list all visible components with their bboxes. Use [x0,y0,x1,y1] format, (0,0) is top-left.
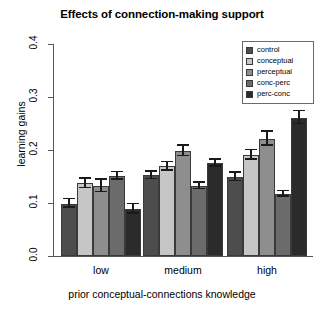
error-bar-cap-bottom [261,144,273,146]
chart-figure: Effects of connection-making support lea… [0,0,324,315]
bar-low-conceptual[interactable] [77,173,93,256]
error-bar-cap-bottom [177,155,189,157]
error-bar-cap-bottom [209,165,221,167]
legend: controlconceptualperceptualconc-percperc… [242,41,314,104]
bar-high-control[interactable] [227,167,243,256]
bar-rect [109,176,125,256]
bar-rect [77,183,93,256]
error-bar-cap-top [193,181,205,183]
error-bar-cap-bottom [161,169,173,171]
error-bar-cap-bottom [277,195,289,197]
x-axis-label: prior conceptual-connections knowledge [0,288,324,300]
bar-rect [259,139,275,256]
error-bar-cap-top [145,170,157,172]
legend-swatch-icon [246,58,253,65]
error-bar-cap-top [79,177,91,179]
legend-label: perc-conc [257,90,290,98]
error-bar-cap-top [127,203,139,205]
error-bar-cap-top [261,130,273,132]
y-tick-label-wrap: 0.2 [18,143,48,157]
bar-low-control[interactable] [61,193,77,256]
error-bar-cap-top [161,161,173,163]
error-bar-cap-bottom [127,212,139,214]
bar-high-perceptual[interactable] [259,126,275,256]
bar-high-perc-conc[interactable] [291,105,307,256]
bar-rect [191,186,207,256]
legend-swatch-icon [246,47,253,54]
error-bar-cap-bottom [245,158,257,160]
error-bar-cap-bottom [193,188,205,190]
bar-group-low [61,44,141,256]
y-tick-label: 0.2 [28,134,39,164]
bar-medium-perceptual[interactable] [175,140,191,256]
legend-item-conceptual[interactable]: conceptual [246,56,311,66]
legend-item-perceptual[interactable]: perceptual [246,67,311,77]
error-bar-cap-top [277,190,289,192]
error-bar-cap-top [63,198,75,200]
bar-rect [61,204,77,256]
error-bar-cap-top [177,144,189,146]
legend-swatch-icon [246,80,253,87]
legend-label: perceptual [257,68,292,76]
error-bar-cap-bottom [79,187,91,189]
error-bar-cap-bottom [293,123,305,125]
bar-rect [291,118,307,256]
legend-swatch-icon [246,69,253,76]
error-bar-cap-bottom [145,178,157,180]
y-tick-label-wrap: 0.1 [18,196,48,210]
x-group-label-low: low [56,264,146,276]
y-tick-label-wrap: 0.4 [18,37,48,51]
error-bar-cap-top [229,171,241,173]
error-bar-cap-bottom [95,191,107,193]
y-tick-label: 0.0 [28,240,39,270]
legend-item-control[interactable]: control [246,45,311,55]
bar-medium-conceptual[interactable] [159,156,175,256]
bar-high-conc-perc[interactable] [275,185,291,256]
legend-label: control [257,46,280,54]
bar-rect [143,175,159,256]
legend-label: conceptual [257,57,293,65]
error-bar-cap-top [95,178,107,180]
error-bar-cap-top [245,149,257,151]
bar-low-conc-perc[interactable] [109,166,125,256]
bar-medium-control[interactable] [143,166,159,256]
error-bar-cap-bottom [229,180,241,182]
legend-item-conc-perc[interactable]: conc-perc [246,78,311,88]
bar-rect [207,163,223,256]
y-tick-label-wrap: 0.3 [18,90,48,104]
legend-item-perc-conc[interactable]: perc-conc [246,89,311,99]
bar-medium-perc-conc[interactable] [207,154,223,256]
y-tick-label: 0.1 [28,187,39,217]
bar-rect [93,186,109,256]
y-tick-mark [48,256,53,257]
legend-label: conc-perc [257,79,290,87]
error-bar-cap-top [111,171,123,173]
error-bar-cap-top [209,158,221,160]
legend-swatch-icon [246,91,253,98]
x-group-label-medium: medium [138,264,228,276]
bar-low-perc-conc[interactable] [125,198,141,256]
bar-rect [243,155,259,256]
y-axis-label: learning gains [15,59,27,209]
chart-title: Effects of connection-making support [0,8,324,20]
y-tick-label-wrap: 0.0 [18,249,48,263]
bar-medium-conc-perc[interactable] [191,177,207,256]
x-axis-line [53,256,313,257]
y-tick-label: 0.4 [28,28,39,58]
bar-rect [227,177,243,256]
x-group-label-high: high [222,264,312,276]
error-bar-cap-top [293,110,305,112]
error-bar-cap-bottom [111,178,123,180]
bar-rect [159,166,175,256]
bar-group-medium [143,44,223,256]
bar-low-perceptual[interactable] [93,174,109,256]
bar-rect [275,194,291,256]
bar-high-conceptual[interactable] [243,144,259,256]
error-bar-cap-bottom [63,206,75,208]
y-tick-label: 0.3 [28,81,39,111]
bar-rect [125,209,141,256]
bar-rect [175,151,191,256]
